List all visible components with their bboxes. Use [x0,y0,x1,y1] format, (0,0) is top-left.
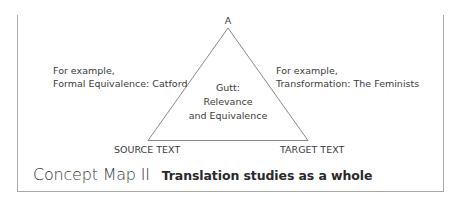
caption-title: Concept Map II [33,165,150,184]
figure-caption: Concept Map IITranslation studies as a w… [33,165,372,184]
center-note-line-3: and Equivalence [178,109,278,123]
right-note-line-2: Transformation: The Feminists [276,77,419,90]
left-note-line-1: For example, [53,64,187,77]
center-note-line-1: Gutt: [178,81,278,95]
right-example-note: For example, Transformation: The Feminis… [276,64,419,90]
apex-label: A [222,14,234,27]
center-note: Gutt: Relevance and Equivalence [178,81,278,123]
target-text-label: TARGET TEXT [280,143,344,156]
caption-subtitle: Translation studies as a whole [162,168,373,183]
left-note-line-2: Formal Equivalence: Catford [53,77,187,90]
source-text-label: SOURCE TEXT [114,143,180,156]
right-note-line-1: For example, [276,64,419,77]
left-example-note: For example, Formal Equivalence: Catford [53,64,187,90]
center-note-line-2: Relevance [178,95,278,109]
